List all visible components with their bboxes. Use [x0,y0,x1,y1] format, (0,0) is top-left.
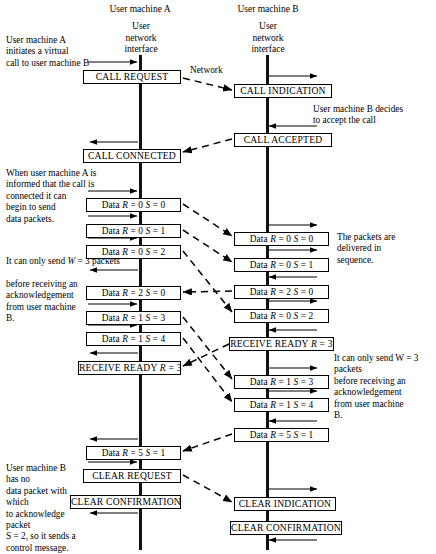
note-b-sequence: The packets are delivered in sequence. [337,232,435,266]
packet-clear-request: CLEAR REQUEST [83,469,181,483]
note-a-initiate: User machine A initiates a virtual call … [6,35,126,69]
packet-call-request: CALL REQUEST [83,70,181,84]
packet-call-accepted: CALL ACCEPTED [234,133,332,147]
packet-data-r0-s2-a: Data R = 0 S = 2 [86,245,181,259]
packet-call-connected: CALL CONNECTED [83,149,181,163]
packet-data-r0-s1-a: Data R = 0 S = 1 [86,224,181,238]
packet-data-r1-s4-b: Data R = 1 S = 4 [234,398,329,412]
note-a-clearing: User machine B has no data packet with w… [6,463,78,554]
packet-receive-ready-r3-b: RECEIVE READY R = 3 [229,337,334,351]
packet-data-r2-s0-a: Data R = 2 S = 0 [86,286,181,300]
note-a-connected: When user machine A is informed that the… [6,168,136,225]
packet-data-r2-s0-b: Data R = 2 S = 0 [234,285,329,299]
packet-data-r0-s0-b: Data R = 0 S = 0 [234,232,329,246]
packet-receive-ready-r3-a: RECEIVE READY R = 3 [78,361,181,375]
note-b-control: It can only send W = 3 packets before re… [334,353,436,421]
packet-clear-confirmation-a: CLEAR CONFIRMATION [70,495,181,509]
packet-call-indication: CALL INDICATION [234,84,332,98]
packet-data-r1-s3-b: Data R = 1 S = 3 [234,375,329,389]
packet-clear-indication: CLEAR INDICATION [234,497,336,511]
packet-data-r1-s3-a: Data R = 1 S = 3 [86,311,181,325]
packet-data-r5-s1-b: Data R = 5 S = 1 [234,428,329,442]
packet-data-r0-s1-b: Data R = 0 S = 1 [234,258,329,272]
packet-clear-confirmation-b: CLEAR CONFIRMATION [230,521,342,535]
packet-data-r0-s0-a: Data R = 0 S = 0 [86,198,181,212]
sequence-diagram: User machine A User network interface Us… [0,0,436,554]
packet-data-r1-s4-a: Data R = 1 S = 4 [86,332,181,346]
note-b-accept: User machine B decides to accept the cal… [313,104,435,127]
note-window-text-1: It can only send [6,256,67,266]
packet-data-r0-s2-b: Data R = 0 S = 2 [234,309,329,323]
packet-data-r5-s1-a: Data R = 5 S = 1 [86,446,181,460]
